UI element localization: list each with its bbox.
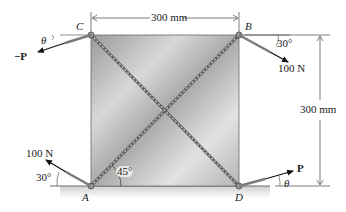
corner-label-a: A (82, 192, 89, 203)
angle-label-theta-c: θ (41, 35, 46, 46)
angle-label-theta-d: θ (284, 178, 289, 189)
height-dimension-label: 300 mm (300, 104, 336, 115)
force-100n-at-a (46, 160, 91, 186)
width-dimension-label: 300 mm (151, 12, 187, 23)
angle-label-45: 45° (116, 166, 133, 177)
corner-label-c: C (76, 21, 83, 32)
force-label-100n-b: 100 N (278, 63, 305, 74)
diagram-canvas (0, 0, 346, 212)
force-label-p: P (297, 163, 304, 174)
angle-label-30-b: 30° (277, 38, 292, 49)
force-label-neg-p: −P (14, 51, 27, 62)
angle-label-30-a: 30° (36, 172, 51, 183)
corner-label-d: D (235, 192, 243, 203)
corner-label-b: B (245, 21, 252, 32)
force-label-100n-a: 100 N (26, 148, 53, 159)
